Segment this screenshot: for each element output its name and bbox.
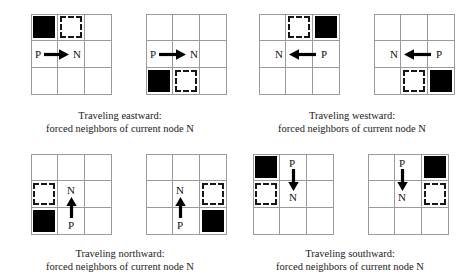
grid-cell-r0c2 [307, 154, 334, 181]
caption-line-2: forced neighbors of current node N [238, 261, 462, 274]
forced-neighbor-square [60, 16, 82, 38]
caption-line-2: forced neighbors of current node N [10, 123, 230, 136]
grid-cell-r0c2 [200, 14, 227, 41]
grid-cell-r0c2 [85, 14, 112, 41]
parent-label: P [35, 49, 41, 60]
obstacle-square [424, 156, 446, 178]
caption-line-1: Traveling eastward: [10, 110, 230, 123]
caption-westward: Traveling westward: forced neighbors of … [240, 110, 464, 135]
grid-eastward-b: P N [146, 14, 227, 95]
down-arrow-icon [396, 169, 409, 191]
forced-neighbor-square [424, 183, 446, 205]
node-label: N [73, 49, 81, 60]
grid-cell-r2c2 [422, 208, 449, 235]
node-label: N [176, 185, 184, 196]
grid-cell-r2c0 [374, 68, 401, 95]
left-arrow-icon [401, 48, 433, 61]
grid-cell-r2c0 [259, 68, 286, 95]
grid-cell-r2c0 [146, 208, 173, 235]
forced-neighbor-square [403, 70, 425, 92]
grid-cell-r2c2 [200, 68, 227, 95]
grid-northward-b: N P [146, 154, 227, 235]
caption-line-1: Traveling westward: [240, 110, 464, 123]
grid-cell-r2c2 [85, 68, 112, 95]
grid-cell-r1c2 [85, 181, 112, 208]
obstacle-square [148, 70, 170, 92]
grid-cell-r0c0 [259, 14, 286, 41]
forced-neighbor-square [288, 16, 310, 38]
grid-cell-r2c0 [253, 208, 280, 235]
grid-cell-r0c0 [146, 154, 173, 181]
grid-southward-a: P N [253, 154, 334, 235]
obstacle-square [33, 16, 55, 38]
grid-cell-r0c0 [368, 154, 395, 181]
caption-line-1: Traveling southward: [238, 248, 462, 261]
caption-eastward: Traveling eastward: forced neighbors of … [10, 110, 230, 135]
node-label: N [289, 192, 297, 203]
parent-label: P [68, 220, 74, 231]
grid-cell-r1c2 [85, 41, 112, 68]
caption-line-2: forced neighbors of current node N [10, 261, 230, 274]
down-arrow-icon [287, 169, 300, 191]
grid-cell-r0c2 [85, 154, 112, 181]
grid-cell-r1c0 [146, 181, 173, 208]
parent-label: P [436, 49, 442, 60]
caption-line-2: forced neighbors of current node N [240, 123, 464, 136]
grid-cell-r1c2 [200, 41, 227, 68]
grid-southward-b: P N [368, 154, 449, 235]
grid-eastward-a: P N [31, 14, 112, 95]
parent-label: P [150, 49, 156, 60]
grid-cell-r0c0 [146, 14, 173, 41]
grid-cell-r0c1 [58, 154, 85, 181]
forced-neighbors-figure: P N P N [0, 0, 474, 277]
parent-label: P [289, 158, 295, 169]
obstacle-square [315, 16, 337, 38]
node-label: N [390, 49, 398, 60]
grid-cell-r2c1 [286, 68, 313, 95]
obstacle-square [202, 210, 224, 232]
grid-westward-a: N P [259, 14, 340, 95]
obstacle-square [33, 210, 55, 232]
left-arrow-icon [286, 48, 318, 61]
grid-cell-r0c2 [428, 14, 455, 41]
grid-cell-r2c2 [313, 68, 340, 95]
right-arrow-icon [159, 48, 189, 61]
grid-cell-r2c2 [307, 208, 334, 235]
up-arrow-icon [174, 197, 187, 219]
forced-neighbor-square [202, 183, 224, 205]
grid-cell-r2c0 [31, 68, 58, 95]
node-label: N [67, 185, 75, 196]
grid-cell-r2c1 [58, 68, 85, 95]
grid-cell-r2c0 [368, 208, 395, 235]
parent-label: P [321, 49, 327, 60]
caption-southward: Traveling southward: forced neighbors of… [238, 248, 462, 273]
parent-label: P [177, 220, 183, 231]
grid-cell-r0c1 [173, 154, 200, 181]
grid-cell-r0c0 [31, 154, 58, 181]
grid-cell-r0c0 [374, 14, 401, 41]
grid-northward-a: N P [31, 154, 112, 235]
parent-label: P [399, 158, 405, 169]
grid-cell-r2c1 [395, 208, 422, 235]
grid-cell-r1c2 [307, 181, 334, 208]
forced-neighbor-square [175, 70, 197, 92]
obstacle-square [430, 70, 452, 92]
grid-cell-r0c1 [401, 14, 428, 41]
grid-cell-r0c2 [200, 154, 227, 181]
right-arrow-icon [44, 48, 72, 61]
node-label: N [190, 49, 198, 60]
node-label: N [275, 49, 283, 60]
grid-westward-b: N P [374, 14, 455, 95]
grid-cell-r2c1 [280, 208, 307, 235]
node-label: N [398, 192, 406, 203]
obstacle-square [255, 156, 277, 178]
grid-cell-r0c1 [173, 14, 200, 41]
up-arrow-icon [65, 197, 78, 219]
grid-cell-r2c2 [85, 208, 112, 235]
forced-neighbor-square [33, 183, 55, 205]
grid-cell-r1c0 [368, 181, 395, 208]
caption-northward: Traveling northward: forced neighbors of… [10, 248, 230, 273]
forced-neighbor-square [255, 183, 277, 205]
caption-line-1: Traveling northward: [10, 248, 230, 261]
